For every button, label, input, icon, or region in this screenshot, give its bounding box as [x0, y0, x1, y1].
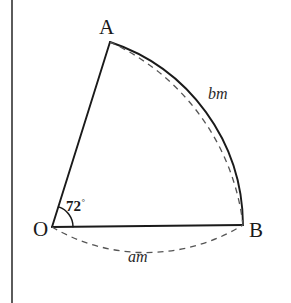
- vertex-label-O: O: [33, 219, 48, 240]
- angle-value: 72: [66, 198, 81, 214]
- degree-symbol: °: [82, 197, 86, 207]
- vertex-label-A: A: [99, 17, 114, 38]
- vertex-label-B: B: [249, 220, 263, 241]
- angle-measure-label: 72°: [66, 198, 85, 214]
- arc-label-bm: bm: [208, 86, 228, 102]
- geometry-figure-canvas: A O B bm am 72°: [0, 0, 291, 303]
- arc-label-am: am: [128, 249, 148, 265]
